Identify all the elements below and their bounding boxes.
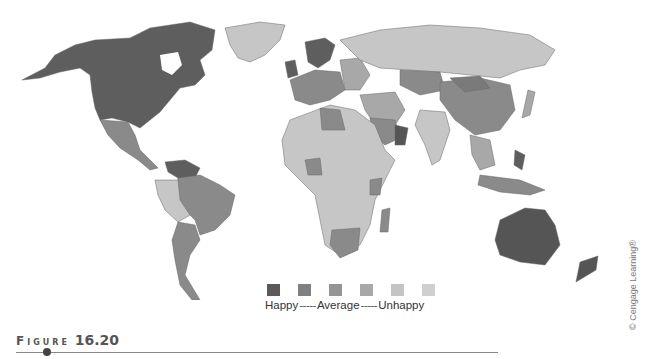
map-legend: Happy-----Average-----Unhappy xyxy=(265,284,445,314)
region-argentina xyxy=(172,222,200,300)
region-india xyxy=(415,110,450,165)
region-venezuela xyxy=(165,160,200,178)
region-kenya xyxy=(370,178,382,195)
region-north-america xyxy=(22,22,215,128)
caption-dot xyxy=(43,348,51,356)
region-indonesia xyxy=(478,175,545,195)
legend-dash: ----- xyxy=(299,299,316,311)
legend-dash: ----- xyxy=(361,299,378,311)
region-nigeria xyxy=(305,158,322,175)
world-map xyxy=(0,0,652,300)
figure-label: Figure xyxy=(16,334,70,348)
region-russia xyxy=(340,25,555,78)
legend-swatch-2 xyxy=(298,284,311,296)
copyright-credit: © Cengage Learning® xyxy=(628,240,638,330)
region-se-asia xyxy=(470,135,495,170)
legend-swatch-3 xyxy=(329,284,342,296)
legend-swatch-5 xyxy=(391,284,404,296)
region-japan xyxy=(522,90,535,118)
legend-label-unhappy: Unhappy xyxy=(378,299,424,311)
region-madagascar xyxy=(380,208,390,232)
legend-label-happy: Happy xyxy=(265,299,298,311)
legend-swatch-4 xyxy=(360,284,373,296)
region-south-africa xyxy=(330,228,360,258)
legend-swatches xyxy=(267,284,435,296)
caption-rule xyxy=(16,352,498,353)
region-australia xyxy=(495,208,560,265)
legend-swatch-6 xyxy=(422,284,435,296)
region-scandinavia xyxy=(305,38,335,68)
region-western-europe xyxy=(290,70,345,105)
region-eastern-europe xyxy=(340,58,370,90)
region-uk xyxy=(285,60,298,78)
figure-caption: Figure 16.20 xyxy=(16,332,119,348)
region-philippines xyxy=(514,150,525,170)
legend-swatch-1 xyxy=(267,284,280,296)
region-kazakhstan xyxy=(400,70,445,95)
legend-labels: Happy-----Average-----Unhappy xyxy=(265,299,424,311)
figure-number: 16.20 xyxy=(75,332,119,348)
legend-label-average: Average xyxy=(317,299,360,311)
region-mexico xyxy=(100,120,158,170)
region-oman xyxy=(395,125,408,145)
region-greenland xyxy=(225,22,285,62)
region-new-zealand xyxy=(576,256,598,282)
